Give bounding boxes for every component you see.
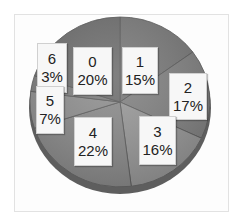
- percent-label: 15%: [123, 71, 157, 89]
- percent-label: 7%: [37, 110, 63, 128]
- percent-label: 16%: [140, 141, 175, 159]
- category-label: 0: [74, 53, 111, 71]
- category-label: 2: [170, 79, 206, 97]
- data-label-0: 0 20%: [73, 47, 112, 95]
- data-label-3: 3 16%: [139, 116, 176, 165]
- category-label: 1: [123, 53, 157, 71]
- category-label: 5: [37, 92, 63, 110]
- data-label-5: 5 7%: [36, 86, 64, 134]
- percent-label: 20%: [74, 71, 111, 89]
- data-label-2: 2 17%: [169, 73, 207, 120]
- category-label: 4: [75, 124, 111, 142]
- category-label: 6: [38, 50, 66, 68]
- percent-label: 17%: [170, 97, 206, 115]
- percent-label: 22%: [75, 142, 111, 160]
- category-label: 3: [140, 123, 175, 141]
- percent-label: 3%: [38, 68, 66, 86]
- data-label-4: 4 22%: [74, 117, 112, 166]
- data-label-1: 1 15%: [122, 47, 158, 94]
